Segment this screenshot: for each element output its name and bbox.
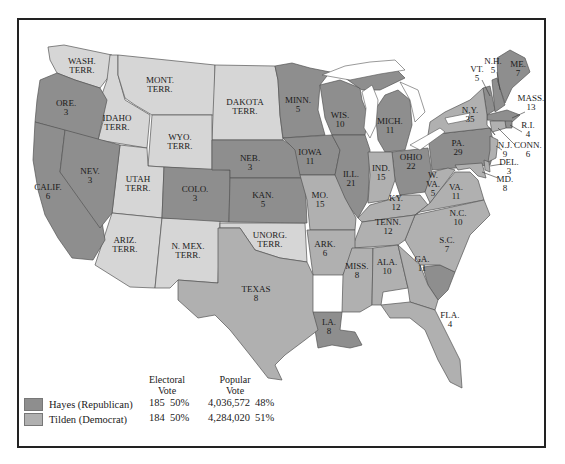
label-utah-sub: TERR.	[125, 183, 150, 193]
electoral-votes: 184	[149, 412, 165, 423]
label-mont-sub: TERR.	[147, 84, 172, 94]
swatch-republican	[24, 398, 43, 411]
popular-votes: 4,036,572	[208, 397, 250, 408]
label-fla-sub: 4	[448, 319, 453, 329]
popular-pct: 48%	[255, 397, 274, 408]
swatch-democrat	[24, 413, 43, 426]
popular-pct: 51%	[255, 412, 274, 423]
label-me-sub: 7	[516, 68, 521, 78]
label-ind-sub: 15	[377, 172, 387, 182]
label-ark-sub: 6	[323, 248, 328, 258]
label-ny-sub: 35	[466, 114, 476, 124]
label-neb-sub: 3	[248, 162, 253, 172]
popular-header-line2: Vote	[210, 385, 260, 396]
label-md-sub: 8	[503, 183, 508, 193]
label-wva-votes: 5	[431, 188, 436, 198]
label-texas-sub: 8	[254, 293, 259, 303]
electoral-pct: 50%	[170, 412, 189, 423]
label-sc-sub: 7	[445, 244, 450, 254]
party-name: Hayes (Republican)	[49, 399, 133, 410]
label-unorg-sub: TERR.	[257, 239, 282, 249]
popular-header-line1: Popular	[210, 374, 260, 385]
election-map: WASH. TERR. MONT. TERR. DAKOTA TERR. IDA…	[0, 0, 565, 464]
electoral-vote-header: Electoral Vote	[142, 374, 192, 396]
label-ala-sub: 10	[383, 266, 393, 276]
label-idaho-sub: TERR.	[104, 122, 129, 132]
popular-votes: 4,284,020	[208, 412, 250, 423]
label-mo-sub: 15	[316, 199, 326, 209]
label-iowa-sub: 11	[306, 156, 315, 166]
label-nev-sub: 3	[88, 175, 93, 185]
label-nmex-sub: TERR.	[175, 250, 200, 260]
label-ga-sub: 11	[418, 263, 427, 273]
electoral-header-line1: Electoral	[142, 374, 192, 385]
label-ill-sub: 21	[347, 178, 356, 188]
label-wash-sub: TERR.	[69, 65, 94, 75]
label-nc-sub: 10	[454, 217, 464, 227]
label-wyo-sub: TERR.	[167, 141, 192, 151]
label-pa-sub: 29	[454, 147, 464, 157]
popular-vote-header: Popular Vote	[210, 374, 260, 396]
label-kan-sub: 5	[261, 199, 266, 209]
label-colo-sub: 3	[193, 193, 198, 203]
label-tenn-sub: 12	[384, 226, 393, 236]
state-kan	[229, 178, 307, 223]
label-va-sub: 11	[452, 191, 461, 201]
label-la-sub: 8	[327, 326, 332, 336]
label-conn-sub: 6	[526, 149, 531, 159]
label-minn-sub: 5	[296, 104, 301, 114]
label-vt-sub: 5	[475, 73, 480, 83]
label-calif-sub: 6	[46, 191, 51, 201]
label-ore-sub: 3	[64, 107, 69, 117]
electoral-votes: 185	[149, 397, 165, 408]
electoral-pct: 50%	[170, 397, 189, 408]
label-mass-sub: 13	[527, 102, 537, 112]
state-del	[484, 160, 490, 172]
label-miss-sub: 8	[355, 270, 360, 280]
label-mich-sub: 11	[386, 125, 395, 135]
label-ohio-sub: 22	[407, 161, 416, 171]
label-ariz-sub: TERR.	[112, 244, 137, 254]
state-conn	[490, 121, 506, 132]
legend-row-hayes: Hayes (Republican)	[24, 397, 133, 411]
state-la	[313, 312, 362, 348]
label-nh-sub: 5	[491, 65, 496, 75]
party-name: Tilden (Democrat)	[49, 414, 127, 425]
label-wis-sub: 10	[336, 119, 346, 129]
label-ri-sub: 4	[526, 129, 531, 139]
legend-row-tilden: Tilden (Democrat)	[24, 412, 127, 426]
electoral-header-line2: Vote	[142, 385, 192, 396]
label-ky-sub: 12	[392, 202, 401, 212]
label-dakota-sub: TERR.	[232, 106, 257, 116]
